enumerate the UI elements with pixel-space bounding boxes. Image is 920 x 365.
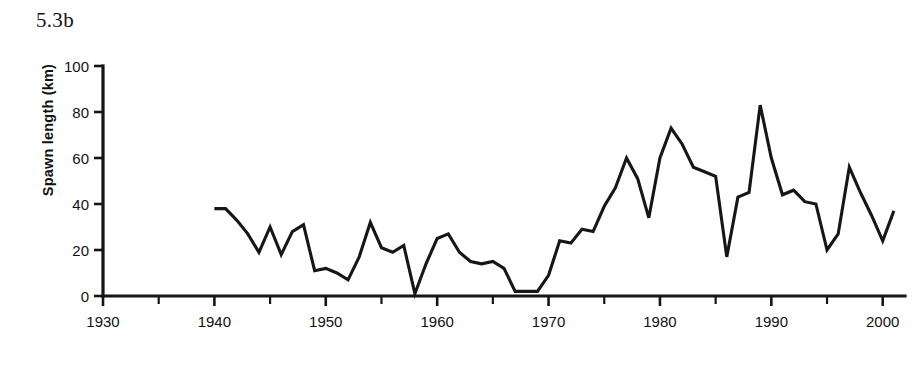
data-series-group	[214, 105, 893, 294]
y-tick-label: 60	[72, 150, 89, 167]
figure-container: 5.3b Spawn length (km) 020406080100 1930…	[0, 0, 920, 365]
x-tick-label: 1950	[309, 313, 342, 330]
x-tick-label: 1930	[86, 313, 119, 330]
line-chart: 020406080100 193019401950196019701980199…	[0, 0, 920, 365]
x-axis-ticks: 19301940195019601970198019902000	[86, 296, 899, 330]
x-tick-label: 1970	[532, 313, 565, 330]
x-tick-label: 1940	[198, 313, 231, 330]
y-tick-label: 0	[81, 288, 89, 305]
x-tick-label: 2000	[866, 313, 899, 330]
x-tick-label: 1980	[643, 313, 676, 330]
data-series-line	[214, 105, 893, 294]
x-tick-label: 1990	[755, 313, 788, 330]
y-axis-ticks: 020406080100	[64, 58, 103, 305]
x-tick-label: 1960	[420, 313, 453, 330]
y-tick-label: 100	[64, 58, 89, 75]
y-tick-label: 20	[72, 242, 89, 259]
y-tick-label: 80	[72, 104, 89, 121]
y-tick-label: 40	[72, 196, 89, 213]
axes	[103, 66, 905, 296]
